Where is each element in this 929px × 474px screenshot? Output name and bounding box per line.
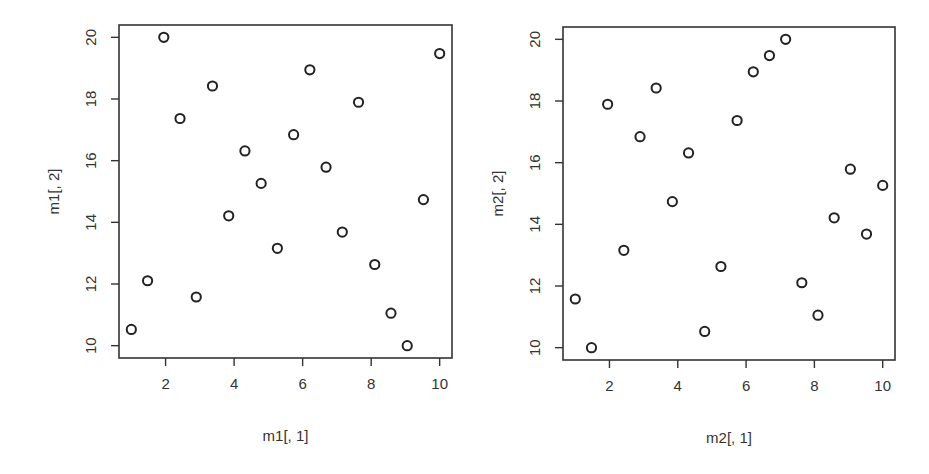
y-tick-label: 10 [526,339,543,356]
data-point [435,49,444,58]
x-tick-label: 4 [674,377,682,394]
data-point [127,325,136,334]
data-point [257,179,266,188]
y-tick-label: 12 [82,276,99,293]
data-points [571,35,888,353]
x-tick-label: 8 [367,375,375,392]
y-axis-title: m1[, 2] [45,169,62,215]
data-point [571,294,580,303]
data-point [813,311,822,320]
y-tick-label: 18 [82,91,99,108]
axis-ticks: 246810101214161820 [82,29,448,392]
x-tick-label: 10 [874,377,891,394]
x-tick-label: 2 [161,375,169,392]
axis-ticks: 246810101214161820 [526,31,891,394]
y-tick-label: 14 [82,214,99,231]
x-tick-label: 6 [742,377,750,394]
data-point [587,343,596,352]
data-point [338,227,347,236]
y-tick-label: 16 [82,152,99,169]
data-point [797,278,806,287]
x-tick-label: 8 [810,377,818,394]
data-point [224,211,233,220]
data-point [878,181,887,190]
x-tick-label: 2 [605,377,613,394]
data-point [273,244,282,253]
figure: 246810101214161820 m1[, 1] m1[, 2] 24681… [0,0,929,474]
data-point [830,213,839,222]
data-point [749,67,758,76]
data-points [127,33,445,351]
data-point [765,51,774,60]
data-point [289,130,298,139]
data-point [652,83,661,92]
data-point [192,292,201,301]
y-tick-label: 18 [526,93,543,110]
data-point [781,35,790,44]
y-tick-label: 10 [82,337,99,354]
y-tick-label: 14 [526,216,543,233]
data-point [403,341,412,350]
data-point [159,33,168,42]
data-point [143,276,152,285]
data-point [716,262,725,271]
data-point [175,114,184,123]
y-tick-label: 20 [526,31,543,48]
x-tick-label: 10 [431,375,448,392]
plot-frame [119,25,452,358]
data-point [619,246,628,255]
y-tick-label: 20 [82,29,99,46]
data-point [240,146,249,155]
data-point [668,197,677,206]
data-point [386,309,395,318]
y-axis-title: m2[, 2] [489,171,506,217]
data-point [354,98,363,107]
data-point [321,163,330,172]
data-point [305,65,314,74]
scatter-panel-m1: 246810101214161820 m1[, 1] m1[, 2] [45,25,452,444]
y-tick-label: 12 [526,278,543,295]
plot-frame [563,27,895,360]
x-axis-title: m2[, 1] [706,429,752,446]
data-point [635,132,644,141]
scatter-panel-m2: 246810101214161820 m2[, 1] m2[, 2] [489,27,895,446]
data-point [208,81,217,90]
data-point [419,195,428,204]
x-tick-label: 4 [230,375,238,392]
x-axis-title: m1[, 1] [263,427,309,444]
data-point [846,165,855,174]
x-tick-label: 6 [298,375,306,392]
data-point [684,148,693,157]
data-point [370,260,379,269]
y-tick-label: 16 [526,154,543,171]
data-point [603,100,612,109]
data-point [862,229,871,238]
data-point [700,327,709,336]
data-point [732,116,741,125]
